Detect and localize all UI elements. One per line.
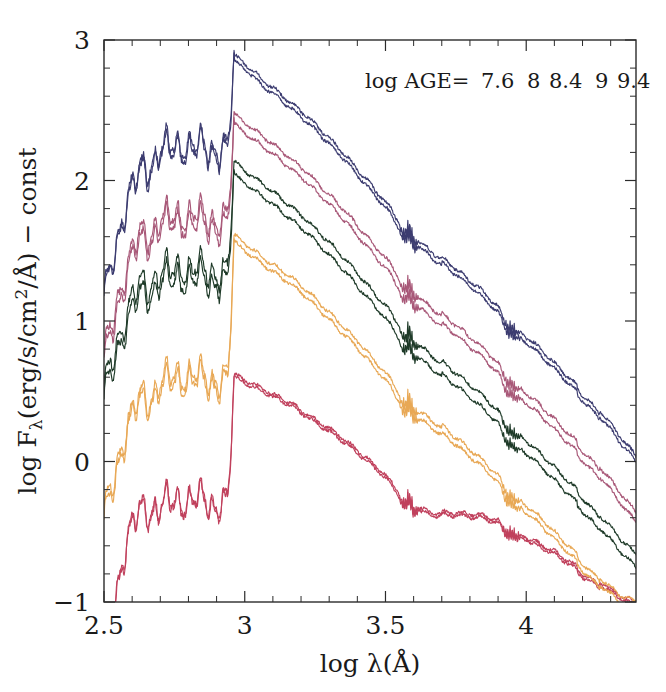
y-tick-label: 0 [74, 448, 90, 477]
y-axis-title: log Fλ(erg/s/cm2/Å) − const [11, 148, 46, 495]
x-tick-label: 2.5 [84, 611, 124, 640]
legend: log AGE=7.688.499.4 [365, 69, 650, 93]
y-tick-label: −1 [53, 588, 90, 617]
spectrum-series-9-4 [104, 373, 636, 609]
x-axis-title: log λ(Å) [320, 648, 420, 678]
spectrum-curve-9-4-model1 [104, 373, 636, 609]
x-tick-label: 3.5 [366, 611, 406, 640]
y-title-lead: log F [13, 430, 42, 494]
x-axis-title-text: log λ(Å) [320, 648, 420, 678]
y-title-tail: /Å) − const [12, 148, 42, 289]
spectrum-series-9 [104, 233, 636, 609]
y-title-sub: λ [26, 419, 46, 430]
y-tick-label: 2 [74, 167, 90, 196]
spectra-curves-layer [104, 50, 636, 609]
x-tick-label: 3 [237, 611, 253, 640]
x-title-lead: log λ(Å) [320, 648, 420, 678]
y-tick-label: 1 [74, 307, 90, 336]
spectrum-curve-8-4-model1 [104, 160, 636, 554]
legend-entry-9[interactable]: 9 [595, 69, 608, 93]
legend-entry-8[interactable]: 8 [527, 69, 540, 93]
spectrum-curve-9-4-model2 [104, 376, 636, 609]
spectral-energy-distribution-figure: 2.533.54−10123 log λ(Å) log Fλ(erg/s/cm2… [0, 0, 666, 692]
y-tick-label: 3 [74, 26, 90, 55]
legend-entry-7-6[interactable]: 7.6 [481, 69, 514, 93]
legend-title: log AGE= [365, 69, 469, 93]
spectrum-curve-7-6-model2 [104, 53, 636, 462]
legend-entry-8-4[interactable]: 8.4 [549, 69, 582, 93]
x-tick-label: 4 [518, 611, 534, 640]
spectrum-series-7-6 [104, 50, 636, 462]
spectrum-series-8 [104, 112, 636, 523]
y-title-sup: 2 [11, 289, 31, 300]
plot-canvas: 2.533.54−10123 log λ(Å) log Fλ(erg/s/cm2… [0, 0, 666, 692]
y-title-rest: (erg/s/cm [13, 299, 42, 419]
legend-entry-9-4[interactable]: 9.4 [617, 69, 650, 93]
spectrum-curve-8-model1 [104, 112, 636, 514]
y-axis-title-text: log Fλ(erg/s/cm2/Å) − const [11, 148, 46, 495]
